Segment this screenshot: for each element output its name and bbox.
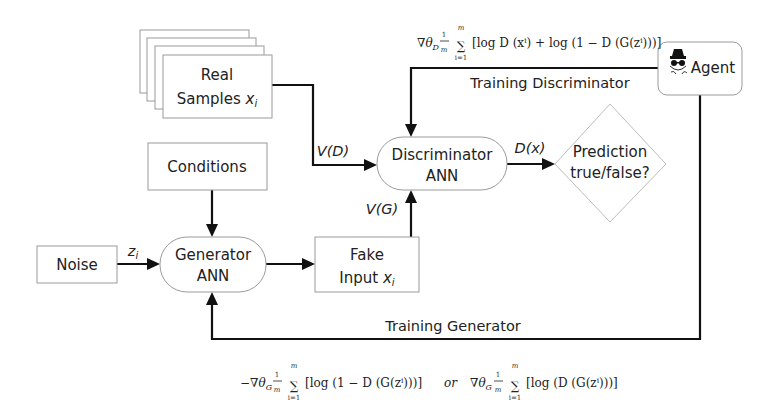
conditions-label: Conditions [167, 158, 247, 176]
svg-text:i=1: i=1 [509, 394, 522, 402]
prediction-diamond [555, 104, 666, 222]
fake-input-line1: Fake [350, 246, 384, 264]
discriminator-node[interactable]: Discriminator ANN [377, 137, 507, 190]
label-v-d: V(D) [317, 143, 349, 159]
fake-input-line2: Input xi [339, 269, 395, 288]
svg-text:[log (D (G(zⁱ)))]: [log (D (G(zⁱ)))] [526, 376, 618, 390]
label-d-x: D(x) [514, 140, 545, 156]
generator-line2: ANN [197, 267, 230, 285]
real-samples-line1: Real [201, 66, 233, 84]
prediction-line1: Prediction [573, 143, 648, 161]
edge-generator-to-fake [266, 258, 315, 270]
discriminator-line1: Discriminator [392, 146, 494, 164]
svg-text:∇θG: ∇θG [470, 376, 493, 392]
label-v-g: V(G) [366, 201, 398, 217]
prediction-line2: true/false? [570, 164, 649, 182]
label-training-discriminator: Training Discriminator [469, 75, 629, 91]
discriminator-line2: ANN [426, 167, 459, 185]
svg-text:m: m [512, 362, 519, 370]
generator-line1: Generator [175, 246, 252, 264]
svg-text:m: m [495, 386, 502, 394]
real-samples-line2: Samples xi [177, 90, 258, 109]
svg-text:∑: ∑ [511, 379, 520, 393]
edge-discriminator-to-prediction [507, 158, 555, 170]
svg-text:m: m [441, 46, 448, 54]
svg-text:−∇θG: −∇θG [240, 376, 273, 392]
svg-text:∑: ∑ [290, 379, 299, 393]
svg-text:1: 1 [275, 371, 279, 379]
noise-node[interactable]: Noise [37, 246, 117, 283]
fake-input-node[interactable]: Fake Input xi [315, 237, 419, 292]
formula-generator-update-b: ∇θG 1 m m ∑ i=1 [log (D (G(zⁱ)))] [470, 362, 618, 402]
prediction-node[interactable]: Prediction true/false? [555, 104, 666, 222]
formula-discriminator-update: ∇θD 1 m m ∑ i=1 [log D (xⁱ) + log (1 − D… [417, 24, 661, 62]
formula-or-connector: or [444, 376, 458, 390]
edge-conditions-to-generator [206, 190, 218, 237]
gan-diagram: Real Samples xi Conditions Noise Generat… [0, 0, 777, 406]
svg-text:[log (1 − D (G(zⁱ)))]: [log (1 − D (G(zⁱ)))] [305, 376, 422, 390]
conditions-node[interactable]: Conditions [148, 143, 267, 190]
svg-text:m: m [458, 24, 465, 32]
agent-label: Agent [691, 59, 736, 77]
svg-text:[log D (xⁱ) + log (1 − D (G(zⁱ: [log D (xⁱ) + log (1 − D (G(zⁱ)))] [472, 36, 661, 50]
svg-text:∑: ∑ [457, 39, 466, 53]
noise-label: Noise [56, 256, 98, 274]
edge-fake-to-discriminator [405, 190, 417, 237]
svg-text:1: 1 [442, 31, 446, 39]
svg-text:∇θD: ∇θD [417, 36, 440, 52]
agent-node[interactable]: Agent [658, 42, 742, 95]
svg-text:m: m [291, 362, 298, 370]
svg-text:1: 1 [496, 371, 500, 379]
label-training-generator: Training Generator [384, 318, 520, 334]
label-z-i: zi [127, 243, 139, 261]
svg-text:m: m [274, 386, 281, 394]
svg-text:i=1: i=1 [288, 394, 301, 402]
formula-generator-update-a: −∇θG 1 m m ∑ i=1 [log (1 − D (G(zⁱ)))] [240, 362, 422, 402]
generator-node[interactable]: Generator ANN [160, 237, 266, 292]
edge-noise-to-generator [117, 258, 160, 270]
svg-text:i=1: i=1 [455, 54, 468, 62]
real-samples-node[interactable]: Real Samples xi [140, 30, 272, 118]
